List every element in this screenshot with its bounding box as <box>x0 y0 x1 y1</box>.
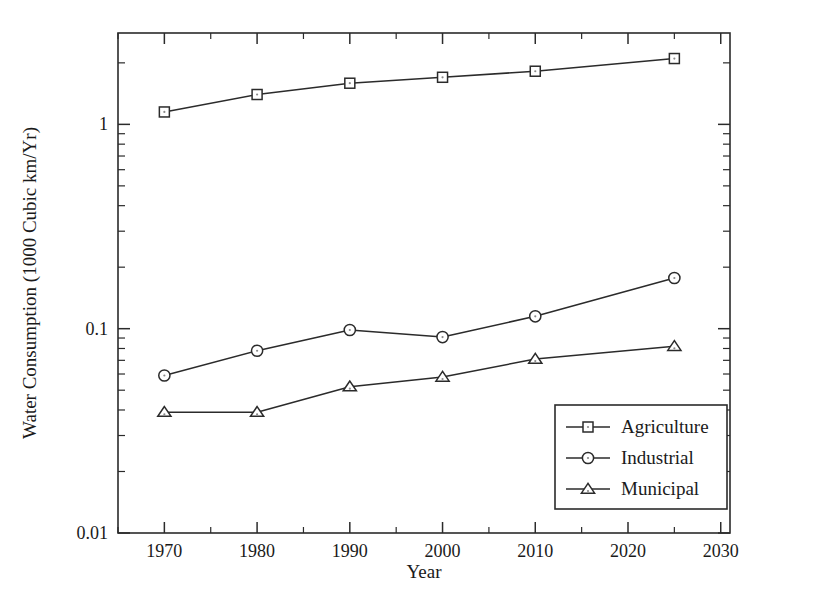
marker-center-dot <box>441 378 443 380</box>
series-line <box>164 59 674 112</box>
data-series-layer <box>158 54 681 417</box>
x-tick-label: 2030 <box>703 541 739 561</box>
marker-center-dot <box>587 490 589 492</box>
chart-figure: 0.010.11 1970198019902000201020202030 Ag… <box>0 0 832 609</box>
x-tick-label: 2000 <box>425 541 461 561</box>
series-industrial <box>159 272 680 381</box>
marker-center-dot <box>534 70 536 72</box>
marker-center-dot <box>163 374 165 376</box>
x-tick-label: 1970 <box>146 541 182 561</box>
line-chart: 0.010.11 1970198019902000201020202030 Ag… <box>0 0 832 609</box>
x-tick-label: 1990 <box>332 541 368 561</box>
marker-center-dot <box>673 277 675 279</box>
marker-center-dot <box>349 329 351 331</box>
y-axis-tick-labels: 0.010.11 <box>77 114 109 543</box>
x-tick-label: 2020 <box>610 541 646 561</box>
legend-label: Agriculture <box>621 416 709 437</box>
marker-center-dot <box>256 350 258 352</box>
marker-center-dot <box>534 315 536 317</box>
x-axis-tick-labels: 1970198019902000201020202030 <box>146 541 738 561</box>
marker-center-dot <box>673 347 675 349</box>
series-line <box>164 278 674 375</box>
marker-center-dot <box>441 76 443 78</box>
y-tick-label: 0.1 <box>86 319 109 339</box>
marker-center-dot <box>163 111 165 113</box>
series-agriculture <box>159 54 679 117</box>
legend-label: Municipal <box>621 478 699 499</box>
y-axis-title: Water Consumption (1000 Cubic km/Yr) <box>19 127 41 439</box>
marker-center-dot <box>349 388 351 390</box>
marker-center-dot <box>587 457 589 459</box>
x-axis-title: Year <box>406 561 442 582</box>
marker-center-dot <box>587 426 589 428</box>
series-line <box>164 346 674 412</box>
marker-center-dot <box>256 413 258 415</box>
marker-center-dot <box>349 82 351 84</box>
legend-label: Industrial <box>621 447 694 468</box>
y-tick-label: 1 <box>99 114 108 134</box>
x-tick-label: 2010 <box>517 541 553 561</box>
marker-center-dot <box>163 413 165 415</box>
marker-center-dot <box>256 93 258 95</box>
marker-center-dot <box>534 360 536 362</box>
chart-legend: AgricultureIndustrialMunicipal <box>555 405 727 509</box>
y-tick-label: 0.01 <box>77 523 109 543</box>
x-tick-label: 1980 <box>239 541 275 561</box>
marker-center-dot <box>441 336 443 338</box>
marker-center-dot <box>673 57 675 59</box>
